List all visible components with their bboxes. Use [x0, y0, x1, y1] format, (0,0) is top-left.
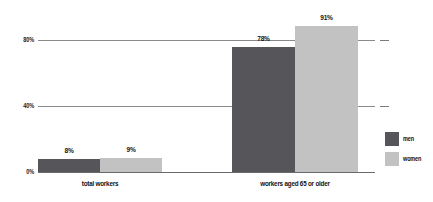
bar-chart: 80% 40% 0% 8% 9% 78% 91% total workers w… — [0, 0, 433, 202]
legend-item-men[interactable]: men — [385, 130, 433, 150]
legend-item-women[interactable]: women — [385, 150, 433, 170]
category-label-workers-65-plus: workers aged 65 or older — [242, 179, 348, 188]
legend: men women — [385, 130, 433, 170]
bar-men-workers-65-plus[interactable] — [232, 47, 295, 172]
value-label-women-total-workers: 9% — [106, 145, 157, 154]
legend-swatch-women-icon — [385, 152, 399, 166]
value-label-men-workers-65-plus: 78% — [238, 34, 290, 43]
value-label-men-total-workers: 8% — [44, 146, 95, 155]
bar-women-total-workers[interactable] — [100, 158, 162, 172]
y-tick-mark-80 — [380, 40, 389, 41]
category-label-total-workers: total workers — [48, 179, 152, 188]
y-axis-label-80: 80% — [5, 36, 34, 43]
value-label-women-workers-65-plus: 91% — [301, 13, 353, 22]
plot-area: 8% 9% 78% 91% total workers workers aged… — [38, 12, 375, 172]
y-axis-label-40: 40% — [5, 102, 34, 109]
legend-label-women: women — [403, 155, 421, 163]
legend-label-men: men — [403, 135, 414, 143]
axis-baseline — [38, 172, 375, 173]
y-axis-label-0: 0% — [5, 168, 34, 175]
bar-women-workers-65-plus[interactable] — [295, 26, 358, 172]
legend-swatch-men-icon — [385, 132, 399, 146]
bar-men-total-workers[interactable] — [38, 159, 100, 172]
y-tick-mark-40 — [380, 106, 389, 107]
